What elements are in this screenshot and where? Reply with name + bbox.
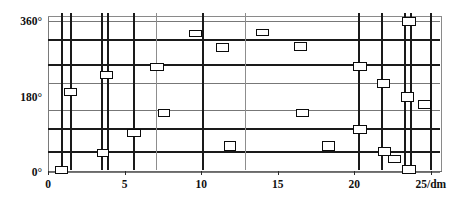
data-point-marker — [216, 43, 229, 52]
x-tick-label: 5 — [122, 178, 128, 190]
y-tick-label: 0° — [32, 166, 42, 178]
gridline-vertical — [61, 13, 63, 170]
x-axis-tick-labels: 0510152025/dm — [0, 178, 457, 196]
data-point-marker — [294, 42, 307, 51]
x-tick-label: 15 — [272, 178, 284, 190]
chart-container: 0°180°360° 0510152025/dm — [0, 0, 457, 210]
gridline-vertical — [245, 13, 246, 170]
plot-area — [48, 17, 440, 172]
data-point-marker — [158, 109, 170, 117]
data-point-marker — [189, 30, 202, 37]
gridline-horizontal — [48, 172, 440, 173]
data-point-marker — [322, 141, 335, 151]
data-point-marker — [353, 62, 367, 71]
gridline-vertical — [430, 13, 432, 170]
x-tick-label: 10 — [195, 178, 207, 190]
data-point-marker — [401, 92, 414, 102]
data-point-marker — [353, 125, 367, 134]
gridline-vertical — [156, 13, 157, 170]
x-tickmark — [278, 171, 279, 175]
gridline-vertical — [358, 13, 360, 170]
x-tick-label: 25/dm — [415, 178, 446, 190]
data-point-marker — [418, 100, 431, 109]
data-point-marker — [377, 79, 390, 88]
gridline-vertical — [133, 13, 135, 170]
data-point-marker — [150, 63, 164, 71]
data-point-marker — [296, 109, 309, 117]
data-point-marker — [388, 155, 401, 163]
data-point-marker — [256, 29, 269, 36]
data-point-marker — [127, 129, 141, 137]
x-tickmark — [48, 171, 49, 175]
x-tick-label: 0 — [45, 178, 51, 190]
gridline-vertical — [107, 13, 109, 170]
plot-frame-right — [441, 17, 442, 172]
data-point-marker — [224, 141, 236, 151]
gridline-vertical — [202, 13, 204, 170]
gridline-vertical — [101, 13, 103, 170]
data-point-marker — [100, 71, 113, 79]
x-tickmark — [125, 171, 126, 175]
data-point-marker — [97, 149, 109, 157]
x-tickmark — [354, 171, 355, 175]
y-tick-label: 180° — [20, 91, 42, 103]
data-point-marker — [402, 165, 416, 174]
data-point-marker — [55, 166, 68, 174]
x-tickmark — [431, 171, 432, 175]
x-tick-label: 20 — [349, 178, 361, 190]
x-tickmark — [201, 171, 202, 175]
data-point-marker — [64, 88, 77, 96]
y-tick-label: 360° — [20, 15, 42, 27]
data-point-marker — [402, 17, 416, 26]
